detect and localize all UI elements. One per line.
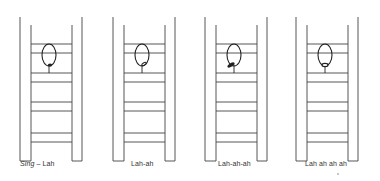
- caption-separator: –: [34, 160, 42, 167]
- ladder-4: [296, 17, 358, 161]
- mouth-oval: [42, 44, 56, 66]
- ladder-2: [113, 17, 175, 161]
- tongue-mark: [141, 62, 147, 67]
- stray-dot: [337, 173, 338, 174]
- mouth-oval: [135, 44, 149, 66]
- mouth-oval: [318, 44, 332, 66]
- caption-lah-ah-ah-ah: Lah ah ah ah: [305, 160, 347, 167]
- ladder-1: [20, 17, 82, 161]
- caption-text: Lah-ah: [131, 160, 153, 167]
- ladder-3: [205, 17, 267, 161]
- tongue-mark: [322, 63, 328, 66]
- caption-text: Lah-ah-ah: [218, 160, 251, 167]
- ladders-drawing: [0, 0, 380, 181]
- tongue-mark: [48, 63, 52, 66]
- caption-prefix: Sing: [20, 160, 34, 167]
- singing-ladder-figure: Sing – Lah Lah-ah Lah-ah-ah Lah ah ah ah: [0, 0, 380, 181]
- caption-text: Lah: [43, 160, 55, 167]
- caption-lah-ah-ah: Lah-ah-ah: [218, 160, 251, 167]
- caption-lah-ah: Lah-ah: [131, 160, 153, 167]
- caption-text: Lah ah ah ah: [305, 160, 347, 167]
- caption-sing-lah: Sing – Lah: [20, 160, 55, 167]
